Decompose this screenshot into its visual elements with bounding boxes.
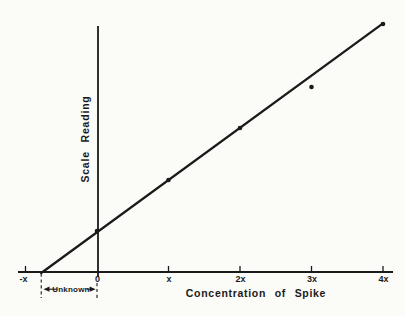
plot-canvas: [0, 0, 405, 316]
x-tick-label-2x: 2x: [228, 274, 253, 284]
data-point: [166, 178, 171, 183]
standard-addition-figure: Scale Reading Concentration of Spike -x …: [0, 0, 405, 316]
unknown-range-label: Unknown: [47, 285, 95, 294]
data-point: [95, 229, 100, 234]
data-point: [238, 126, 243, 131]
x-tick-label-x: x: [157, 274, 182, 284]
x-tick-label-neg-x: -x: [11, 274, 36, 284]
x-axis-title: Concentration of Spike: [166, 287, 346, 299]
x-tick-label-3x: 3x: [300, 274, 325, 284]
x-tick-label-0: 0: [85, 274, 110, 284]
y-axis-title: Scale Reading: [79, 95, 91, 182]
data-point: [309, 85, 314, 90]
x-tick-label-4x: 4x: [371, 274, 396, 284]
data-point: [381, 22, 386, 27]
fit-line: [41, 23, 383, 273]
